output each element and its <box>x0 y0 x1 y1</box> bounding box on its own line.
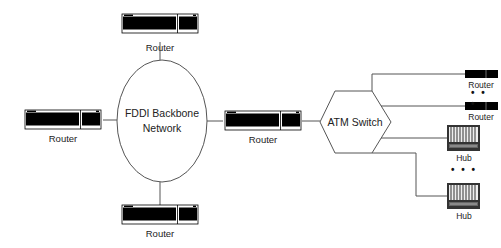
atm-switch-label: ATM Switch <box>327 115 382 130</box>
router-ellipsis: • • • <box>471 87 491 109</box>
hub-2-icon <box>447 183 480 209</box>
hub-1-icon <box>447 125 480 151</box>
router-middle-icon <box>225 111 301 130</box>
router-left-label: Router <box>49 133 78 144</box>
hub-1-label: Hub <box>456 153 472 163</box>
fddi-label-line1: FDDI Backbone <box>125 106 199 121</box>
router-top-icon <box>122 14 198 33</box>
hub-2-label: Hub <box>456 211 472 221</box>
fddi-label-line2: Network <box>125 121 199 136</box>
fddi-backbone-label: FDDI Backbone Network <box>125 106 199 136</box>
router-top-label: Router <box>146 42 175 53</box>
router-atm-2-label: Router <box>468 112 494 122</box>
router-left-icon <box>25 110 101 129</box>
router-bottom-label: Router <box>146 228 175 239</box>
network-diagram <box>0 0 501 248</box>
hub-ellipsis: • • • <box>451 164 477 175</box>
router-bottom-icon <box>122 205 198 224</box>
router-atm-1-icon <box>465 70 498 78</box>
router-middle-label: Router <box>249 134 278 145</box>
